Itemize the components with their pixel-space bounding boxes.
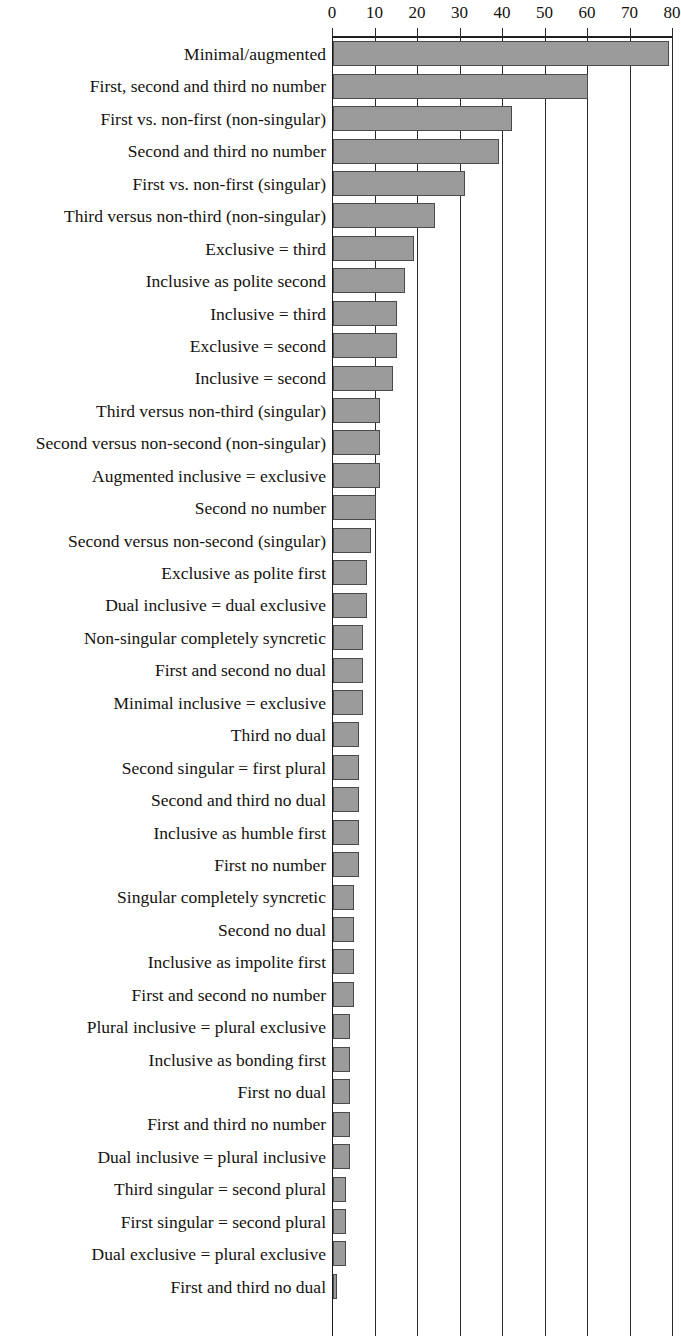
category-label: Second versus non-second (non-singular): [36, 427, 326, 459]
bar-row: First no dual: [0, 1076, 675, 1108]
category-label: Dual inclusive = dual exclusive: [105, 589, 326, 621]
bar: [333, 203, 435, 228]
bar: [333, 1209, 346, 1234]
bar-row: Plural inclusive = plural exclusive: [0, 1011, 675, 1043]
category-label: First vs. non-first (singular): [133, 168, 326, 200]
bar-row: Dual exclusive = plural exclusive: [0, 1238, 675, 1270]
bar: [333, 755, 359, 780]
bar-row: Second no number: [0, 492, 675, 524]
category-label: Exclusive as polite first: [161, 557, 326, 589]
bar-row: Second versus non-second (non-singular): [0, 427, 675, 459]
x-tick-label-40: 40: [494, 3, 511, 23]
category-label: Second no dual: [218, 914, 326, 946]
bar-row: First and third no dual: [0, 1271, 675, 1303]
bar-row: Inclusive as bonding first: [0, 1044, 675, 1076]
x-tick-mark-30: [460, 28, 461, 36]
x-tick-mark-0: [332, 28, 333, 36]
bar-row: Minimal inclusive = exclusive: [0, 687, 675, 719]
bar: [333, 820, 359, 845]
category-label: Exclusive = third: [205, 233, 326, 265]
bar-row: First and third no number: [0, 1108, 675, 1140]
bar: [333, 398, 380, 423]
bar-row: Exclusive as polite first: [0, 557, 675, 589]
x-tick-label-30: 30: [451, 3, 468, 23]
x-tick-mark-70: [630, 28, 631, 36]
bar: [333, 560, 367, 585]
bar-row: Inclusive = third: [0, 298, 675, 330]
bar: [333, 852, 359, 877]
bar-row: First, second and third no number: [0, 70, 675, 102]
category-label: First and second no dual: [155, 654, 326, 686]
bar: [333, 171, 465, 196]
bar-row: Second and third no number: [0, 135, 675, 167]
bar-row: Third singular = second plural: [0, 1173, 675, 1205]
bar-row: First no number: [0, 849, 675, 881]
category-label: First and third no number: [147, 1108, 326, 1140]
x-tick-mark-60: [587, 28, 588, 36]
category-label: Inclusive as polite second: [146, 265, 326, 297]
category-label: First singular = second plural: [121, 1206, 326, 1238]
bar-row: Inclusive as polite second: [0, 265, 675, 297]
category-label: Second versus non-second (singular): [68, 525, 326, 557]
x-tick-label-50: 50: [536, 3, 553, 23]
category-label: Third no dual: [231, 719, 326, 751]
bar: [333, 787, 359, 812]
category-label: Augmented inclusive = exclusive: [92, 460, 326, 492]
x-tick-mark-10: [375, 28, 376, 36]
bar: [333, 1079, 350, 1104]
bar-row: Singular completely syncretic: [0, 881, 675, 913]
bar: [333, 1144, 350, 1169]
x-tick-label-0: 0: [328, 3, 337, 23]
bar: [333, 1047, 350, 1072]
bar: [333, 268, 405, 293]
category-label: Plural inclusive = plural exclusive: [87, 1011, 326, 1043]
bar: [333, 722, 359, 747]
bar-row: First singular = second plural: [0, 1206, 675, 1238]
bar: [333, 982, 354, 1007]
x-axis-tick-labels: 01020304050607080: [0, 0, 675, 28]
bar-row: First and second no number: [0, 979, 675, 1011]
category-label: Third versus non-third (singular): [96, 395, 326, 427]
category-label: Dual exclusive = plural exclusive: [92, 1238, 326, 1270]
category-label: Second and third no dual: [151, 784, 326, 816]
bar-row: Third versus non-third (non-singular): [0, 200, 675, 232]
bar-row: Augmented inclusive = exclusive: [0, 460, 675, 492]
category-label: Inclusive = third: [210, 298, 326, 330]
x-tick-label-60: 60: [579, 3, 596, 23]
bar: [333, 366, 393, 391]
bar-row: Inclusive = second: [0, 362, 675, 394]
category-label: Second and third no number: [128, 135, 326, 167]
bar-row: Non-singular completely syncretic: [0, 622, 675, 654]
bar: [333, 301, 397, 326]
x-tick-mark-80: [672, 28, 673, 36]
category-label: Minimal/augmented: [184, 38, 326, 70]
category-label: Inclusive = second: [195, 362, 326, 394]
bar: [333, 463, 380, 488]
x-tick-label-10: 10: [366, 3, 383, 23]
bar: [333, 106, 512, 131]
x-tick-mark-50: [545, 28, 546, 36]
category-label: Third singular = second plural: [114, 1173, 326, 1205]
bar-row: Third versus non-third (singular): [0, 395, 675, 427]
bar: [333, 1241, 346, 1266]
bar: [333, 885, 354, 910]
bar-row: Second singular = first plural: [0, 752, 675, 784]
category-label: First no number: [214, 849, 326, 881]
x-tick-label-80: 80: [664, 3, 681, 23]
category-label: Non-singular completely syncretic: [84, 622, 326, 654]
bar: [333, 1274, 337, 1299]
bar-row: Second versus non-second (singular): [0, 525, 675, 557]
category-label: First, second and third no number: [90, 70, 326, 102]
category-label: Minimal inclusive = exclusive: [113, 687, 326, 719]
category-label: Third versus non-third (non-singular): [64, 200, 326, 232]
x-tick-label-20: 20: [409, 3, 426, 23]
category-label: First and second no number: [132, 979, 326, 1011]
bar: [333, 658, 363, 683]
bar-row: Exclusive = third: [0, 233, 675, 265]
bar: [333, 528, 371, 553]
bar: [333, 1177, 346, 1202]
bar: [333, 593, 367, 618]
bar-row: Exclusive = second: [0, 330, 675, 362]
bar-row: Second and third no dual: [0, 784, 675, 816]
bar: [333, 139, 499, 164]
